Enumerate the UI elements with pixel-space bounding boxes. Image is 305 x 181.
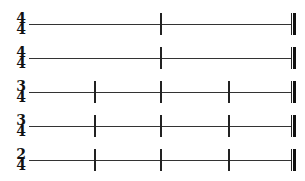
final-barline-thin bbox=[291, 81, 292, 103]
final-barline-thin bbox=[291, 13, 292, 35]
final-barline-thick bbox=[293, 13, 296, 35]
barline bbox=[94, 115, 96, 137]
time-signature-bottom: 4 bbox=[15, 92, 27, 103]
barline bbox=[94, 81, 96, 103]
time-signature: 44 bbox=[15, 13, 27, 35]
final-barline-thick bbox=[293, 81, 296, 103]
barline bbox=[228, 115, 230, 137]
time-signature: 34 bbox=[15, 81, 27, 103]
final-barline-thick bbox=[293, 47, 296, 69]
time-signature-bottom: 4 bbox=[15, 58, 27, 69]
final-barline-thick bbox=[293, 149, 296, 171]
barline bbox=[228, 81, 230, 103]
time-signature: 34 bbox=[15, 115, 27, 137]
barline bbox=[160, 81, 162, 103]
final-barline-thin bbox=[291, 115, 292, 137]
final-barline-thin bbox=[291, 149, 292, 171]
barline bbox=[160, 47, 162, 69]
barline bbox=[228, 149, 230, 171]
time-signature-bottom: 4 bbox=[15, 160, 27, 171]
time-signature-bottom: 4 bbox=[15, 126, 27, 137]
time-signature: 24 bbox=[15, 149, 27, 171]
final-barline-thick bbox=[293, 115, 296, 137]
final-barline-thin bbox=[291, 47, 292, 69]
barline bbox=[94, 149, 96, 171]
barline bbox=[160, 149, 162, 171]
time-signature-bottom: 4 bbox=[15, 24, 27, 35]
barline bbox=[160, 13, 162, 35]
time-signature: 44 bbox=[15, 47, 27, 69]
barline bbox=[160, 115, 162, 137]
